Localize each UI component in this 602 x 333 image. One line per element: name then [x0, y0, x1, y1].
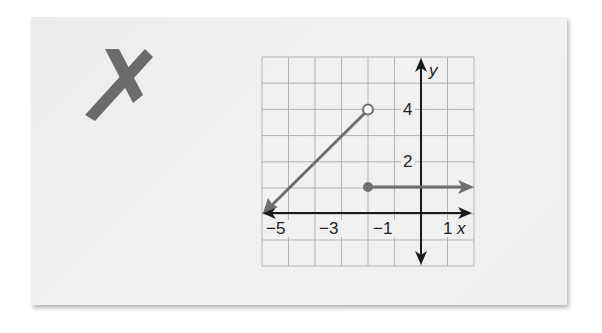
x-tick-label: 1	[443, 219, 452, 238]
y-axis-label: y	[428, 61, 439, 80]
x-axis-label: x	[456, 219, 466, 238]
y-tick-label: 2	[403, 152, 412, 171]
closed-dot-icon	[363, 182, 373, 192]
series-ray-right	[363, 180, 474, 194]
x-tick-label: −1	[373, 219, 392, 238]
open-circle-icon	[363, 105, 373, 115]
y-tick-label: 4	[403, 100, 412, 119]
x-tick-label: −5	[266, 219, 285, 238]
function-graph: −5 −3 −1 1 4 2 x y	[0, 0, 602, 333]
x-tick-label: −3	[319, 219, 338, 238]
x-axis	[262, 207, 472, 219]
tick-labels: −5 −3 −1 1 4 2 x y	[264, 61, 466, 238]
series-ray-left	[263, 105, 373, 214]
